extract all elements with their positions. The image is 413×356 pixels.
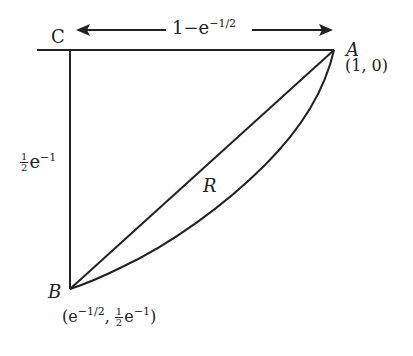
b-coord-comma: , bbox=[105, 307, 110, 326]
vdim-exp: −1 bbox=[40, 151, 56, 164]
vertical-dimension-label: 12e−1 bbox=[20, 152, 56, 173]
region-r-label: R bbox=[203, 177, 217, 195]
point-b-label: B bbox=[48, 283, 61, 301]
b-coord-exp1: −1/2 bbox=[78, 305, 105, 318]
b-coord-exp2: −1 bbox=[134, 305, 150, 318]
hdim-base: 1−e bbox=[172, 17, 209, 38]
vdim-base: e bbox=[29, 151, 40, 172]
horizontal-dimension-label: 1−e−1/2 bbox=[172, 19, 236, 37]
point-c-label: C bbox=[51, 28, 65, 46]
b-coord-e: e bbox=[124, 307, 133, 326]
vdim-half: 12 bbox=[20, 152, 28, 173]
chord-ab bbox=[70, 50, 334, 289]
b-coord-close: ) bbox=[150, 307, 156, 326]
hdim-exp: −1/2 bbox=[209, 17, 236, 30]
b-coord-half: 12 bbox=[115, 307, 123, 328]
point-a-coord: (1, 0) bbox=[345, 58, 388, 74]
point-b-coord: (e−1/2, 12e−1) bbox=[62, 307, 156, 328]
b-coord-open: (e bbox=[62, 307, 78, 326]
